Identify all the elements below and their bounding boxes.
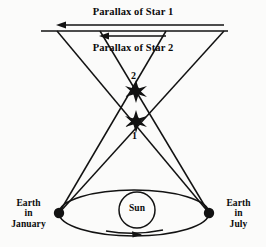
star-2-number-label: 2	[131, 71, 136, 82]
earth-july-label: Earth in July	[214, 198, 263, 229]
earth-january-label-line3: January	[3, 219, 54, 229]
earth-january-label-line1: Earth	[3, 198, 54, 208]
sightline-july-to-star2	[100, 31, 209, 213]
parallax-diagram: Parallax of Star 1 Parallax of Star 2 2 …	[0, 0, 266, 247]
earth-july-label-line3: July	[214, 219, 263, 229]
earth-january-label: Earth in January	[3, 198, 54, 229]
earth-july-label-line2: in	[214, 208, 263, 218]
earth-january-marker	[54, 208, 64, 218]
star-2-glyph-icon	[125, 80, 147, 103]
earth-january-label-line2: in	[3, 208, 54, 218]
earth-july-marker	[204, 208, 214, 218]
sightline-january-to-star2	[59, 31, 166, 213]
star-1-number-label: 1	[132, 131, 137, 142]
parallax-star-2-label: Parallax of Star 2	[0, 42, 266, 53]
earth-july-label-line1: Earth	[214, 198, 263, 208]
parallax-star-1-label: Parallax of Star 1	[0, 6, 266, 17]
parallax-star1-arrowhead-icon	[56, 22, 66, 29]
sun-label: Sun	[120, 203, 154, 213]
